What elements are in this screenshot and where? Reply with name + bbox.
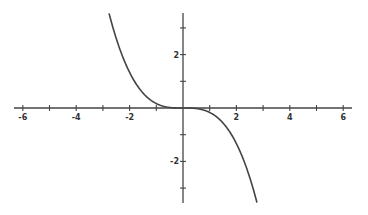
x-tick-label: -4 — [72, 113, 81, 122]
y-tick-label: 2 — [173, 51, 179, 60]
x-tick-label: -2 — [125, 113, 134, 122]
x-tick-label: 4 — [287, 113, 293, 122]
x-tick-label: -6 — [18, 113, 27, 122]
x-tick-label: 6 — [340, 113, 346, 122]
y-tick-label: -2 — [170, 157, 179, 166]
cubic-function-plot: -6-4-22462-2 — [0, 0, 368, 215]
x-tick-label: 2 — [234, 113, 240, 122]
